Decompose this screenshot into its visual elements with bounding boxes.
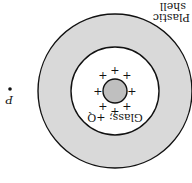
charge-plus: + [122, 69, 131, 82]
charge-plus: + [127, 85, 136, 98]
glass-label: Glass; +Q [87, 111, 143, 124]
charge-plus: + [93, 85, 102, 98]
plastic-label-line2: shell [159, 0, 186, 13]
diagram-canvas: + + + + + + + + Glass; +Q Plastic shell … [0, 0, 192, 183]
point-p-label: P [5, 93, 14, 106]
diagram-svg: + + + + + + + + Glass; +Q Plastic shell … [0, 0, 192, 183]
rotated-figure: + + + + + + + + Glass; +Q Plastic shell … [5, 0, 192, 168]
point-p-dot [8, 87, 12, 91]
charge-plus: + [98, 69, 107, 82]
charge-plus: + [110, 64, 119, 77]
